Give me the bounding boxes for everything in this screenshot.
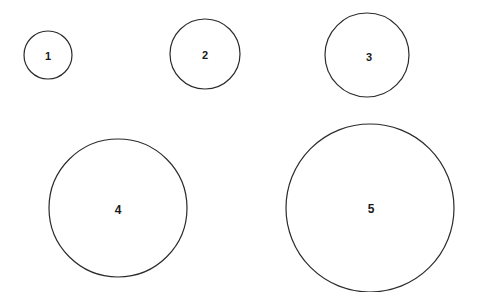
- circle-item-2: 2: [170, 19, 240, 89]
- circle-label-4: 4: [115, 203, 122, 217]
- circle-item-4: 4: [49, 139, 187, 277]
- circle-label-3: 3: [366, 51, 372, 63]
- circle-label-5: 5: [368, 202, 375, 216]
- circle-item-5: 5: [286, 124, 454, 292]
- circle-label-2: 2: [202, 49, 208, 61]
- figure-canvas: 12345: [0, 0, 477, 292]
- circles-figure: 12345: [0, 0, 477, 292]
- circle-label-1: 1: [45, 50, 51, 62]
- circle-item-1: 1: [24, 31, 72, 79]
- circle-item-3: 3: [325, 13, 409, 97]
